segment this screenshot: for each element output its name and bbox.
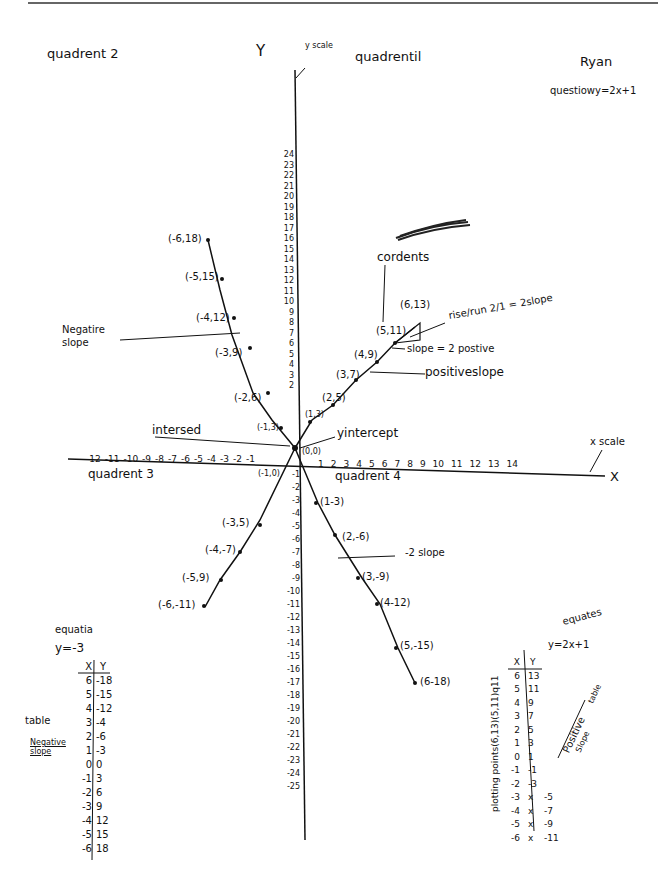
table-cell: x (528, 832, 544, 846)
negative-slope-label: Negatire slope (62, 323, 120, 349)
table-cell: 15 (96, 828, 109, 842)
y-tick: -5 (282, 520, 300, 533)
x-tick: 7 (394, 459, 400, 469)
table-cell: x (528, 818, 544, 832)
y-tick: -1 (282, 468, 300, 481)
y-tick: 16 (280, 234, 294, 245)
point-label: (6,13) (400, 300, 430, 310)
y-tick: -4 (282, 507, 300, 520)
x-tick: -1 (246, 454, 255, 464)
table-cell: 2 (76, 730, 92, 744)
x-axis-negative-ticks: -12 -11 -10 -9 -8 -7 -6 -5 -4 -3 -2 -1 (86, 454, 255, 464)
y-tick: -19 (282, 702, 300, 715)
y-tick: -24 (282, 767, 300, 780)
y-tick: -14 (282, 637, 300, 650)
table-cell: -9 (544, 818, 553, 832)
y-tick: 4 (280, 360, 294, 371)
table-cell: 7 (528, 710, 544, 724)
y-tick: 2 (280, 381, 294, 392)
x-tick: -12 (86, 454, 101, 464)
table-cell: 18 (96, 842, 109, 856)
table-cell: 1 (528, 751, 544, 765)
table-cell: -5 (506, 818, 520, 832)
point-label: (-1,3) (257, 424, 279, 432)
x-scale-label: x scale (590, 437, 625, 447)
table-cell: 1 (506, 737, 520, 751)
x-tick: 12 (470, 459, 481, 469)
table-cell: -3 (506, 791, 520, 805)
table-cell: 9 (528, 697, 544, 711)
y-tick: -20 (282, 715, 300, 728)
plotting-points-label: plotting points(6,13)(5,11)q11 (490, 676, 500, 813)
table-cell: -7 (544, 805, 553, 819)
point-label: (1,3) (305, 411, 324, 419)
point-label: (2,5) (322, 393, 346, 403)
table-cell: -6 (76, 842, 92, 856)
x-tick: 10 (433, 459, 444, 469)
neg-2-slope-label: -2 slope (405, 548, 445, 558)
table-cell: 13 (528, 670, 544, 684)
table-header: Y (530, 656, 536, 670)
point-label: (2,-6) (342, 532, 369, 542)
y-tick: 10 (280, 297, 294, 308)
x-tick: -7 (168, 454, 177, 464)
table-cell: 0 (76, 758, 92, 772)
right-table-equation: y=2x+1 (548, 640, 589, 650)
left-table-title: equatia (55, 625, 93, 635)
quadrant-4-label: quadrent 4 (335, 470, 401, 482)
y-tick: 8 (280, 318, 294, 329)
x-tick: -3 (220, 454, 229, 464)
y-tick: -15 (282, 650, 300, 663)
left-value-table: XY 6-18 5-15 4-12 3-4 2-6 1-3 00 -13 -26… (76, 660, 112, 856)
x-tick: -11 (105, 454, 120, 464)
table-header: X (506, 656, 520, 670)
y-axis-positive-ticks: 24 23 22 21 20 19 18 17 16 15 14 13 12 1… (280, 150, 294, 392)
point-label: (1-3) (320, 497, 344, 507)
x-tick: 11 (451, 459, 462, 469)
point-label: (-4,12) (196, 313, 230, 323)
y-tick: -3 (282, 494, 300, 507)
table-cell: -3 (528, 778, 544, 792)
table-cell: 12 (96, 814, 109, 828)
origin-label: (0,0) (302, 448, 321, 456)
y-tick: 22 (280, 171, 294, 182)
point-label: (5,11) (376, 326, 406, 336)
x-tick: -2 (233, 454, 242, 464)
table-cell: 4 (506, 697, 520, 711)
y-tick: 24 (280, 150, 294, 161)
table-cell: 5 (76, 688, 92, 702)
table-cell: 0 (506, 751, 520, 765)
table-cell: 3 (528, 737, 544, 751)
table-header: X (76, 660, 92, 674)
point-label: (-2,6) (234, 393, 261, 403)
y-tick: -9 (282, 572, 300, 585)
point-label: (-1,0) (258, 470, 280, 478)
x-tick: 8 (407, 459, 413, 469)
table-cell: -1 (528, 764, 544, 778)
y-tick: 7 (280, 329, 294, 340)
table-cell: -5 (544, 791, 553, 805)
point-label: (3,-9) (362, 572, 389, 582)
x-tick: -9 (142, 454, 151, 464)
table-cell: 1 (76, 744, 92, 758)
y-axis-negative-ticks: -1 -2 -3 -4 -5 -6 -7 -8 -9 -10 -11 -12 -… (282, 468, 300, 793)
table-cell: -11 (544, 832, 559, 846)
table-cell: 2 (506, 724, 520, 738)
y-tick: 13 (280, 266, 294, 277)
y-tick: 3 (280, 371, 294, 382)
y-tick: 5 (280, 350, 294, 361)
table-cell: 9 (96, 800, 102, 814)
x-axis-positive-ticks: 1 2 3 4 5 6 7 8 9 10 11 12 13 14 (318, 459, 518, 469)
y-tick: -11 (282, 598, 300, 611)
y-tick: 9 (280, 308, 294, 319)
table-cell: 5 (506, 683, 520, 697)
x-tick: 1 (318, 459, 324, 469)
y-tick: 6 (280, 339, 294, 350)
left-table-side-label: table (25, 716, 50, 726)
x-tick: 2 (331, 459, 337, 469)
y-tick: 23 (280, 161, 294, 172)
y-tick: 18 (280, 213, 294, 224)
x-tick: -8 (155, 454, 164, 464)
x-tick: 9 (420, 459, 426, 469)
y-tick: -18 (282, 689, 300, 702)
